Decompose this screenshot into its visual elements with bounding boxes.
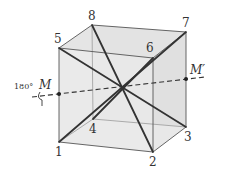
cube-diagram: 5 8 7 6 4 1 2 3 M M′ 180° — [0, 0, 226, 173]
rotation-arrow-icon — [38, 92, 42, 106]
axis-label-m: M — [38, 78, 52, 92]
vertex-label-7: 7 — [182, 16, 190, 30]
axis-point-m-prime — [184, 77, 188, 81]
axis-point-m — [57, 92, 61, 96]
vertex-label-1: 1 — [55, 145, 63, 159]
vertex-label-8: 8 — [88, 9, 96, 23]
axis-label-m-prime: M′ — [189, 63, 205, 77]
vertex-label-3: 3 — [184, 130, 192, 144]
vertex-label-4: 4 — [89, 122, 97, 136]
vertex-label-6: 6 — [146, 41, 154, 55]
cube-face-front — [59, 48, 153, 152]
vertex-label-2: 2 — [149, 155, 157, 169]
vertex-label-5: 5 — [54, 32, 62, 46]
rotation-angle-label: 180° — [14, 82, 33, 91]
